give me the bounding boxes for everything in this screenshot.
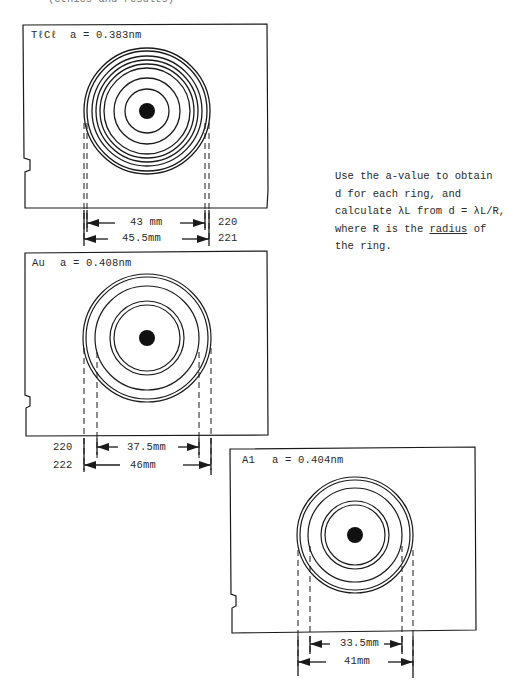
note-line-2: d for each ring, and (335, 186, 505, 204)
ring-projection-lines (298, 546, 413, 668)
au-index-inner: 220 (53, 441, 73, 453)
panel-tlcl (23, 24, 268, 246)
cut-off-heading: (ethics and results) (48, 0, 174, 5)
panel-al-material: A1 (242, 454, 255, 466)
note-emphasis-radius: radius (430, 223, 468, 235)
panel-al-lattice: a = 0.404nm (272, 454, 344, 466)
panel-tlcl-lattice: a = 0.383nm (70, 29, 142, 41)
al-measure-inner: 33.5mm (340, 637, 379, 649)
instruction-note: Use the a-value to obtain d for each rin… (335, 168, 505, 256)
central-beam-spot (139, 330, 155, 346)
note-line-3: calculate λL from d = λL/R, (335, 203, 505, 221)
tlcl-index-inner: 220 (218, 216, 238, 228)
central-beam-spot (347, 527, 363, 543)
note-line-4-pre: where R is the (335, 223, 430, 235)
note-line-4: where R is the radius of (335, 221, 505, 239)
au-measure-outer: 46mm (130, 459, 156, 471)
central-beam-spot (139, 103, 155, 119)
au-measure-inner: 37.5mm (127, 441, 166, 453)
panel-tlcl-material: TℓCℓ (31, 29, 57, 41)
al-measure-outer: 41mm (344, 655, 370, 667)
panel-au-material: Au (32, 257, 45, 269)
tlcl-measure-outer: 45.5mm (122, 232, 161, 244)
au-index-outer: 222 (53, 459, 73, 471)
figure-canvas (0, 0, 508, 698)
panel-au-lattice: a = 0.408nm (60, 257, 132, 269)
tlcl-measure-inner: 43 mm (130, 216, 163, 228)
tlcl-index-outer: 221 (218, 232, 238, 244)
note-line-5: the ring. (335, 238, 505, 256)
note-line-4-post: of (467, 223, 486, 235)
note-line-1: Use the a-value to obtain (335, 168, 505, 186)
